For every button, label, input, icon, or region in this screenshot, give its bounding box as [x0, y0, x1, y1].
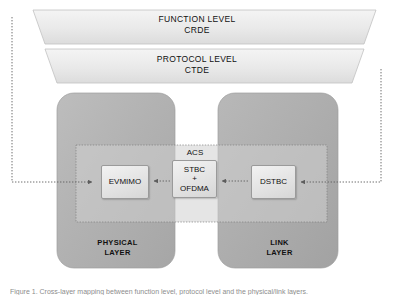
link-layer-label: LINK LAYER — [222, 238, 337, 257]
link-layer-line1: LINK — [222, 238, 337, 248]
stbc-ofdma-node[interactable]: STBC + OFDMA — [172, 160, 217, 198]
function-level-banner — [33, 10, 376, 44]
figure-caption: Figure 1. Cross-layer mapping between fu… — [10, 288, 384, 295]
stbc-line3: OFDMA — [180, 184, 209, 194]
physical-layer-line2: LAYER — [60, 248, 175, 258]
evmimo-node[interactable]: EVMIMO — [101, 165, 149, 199]
stbc-line2: + — [180, 174, 209, 184]
stbc-line1: STBC — [180, 165, 209, 175]
protocol-level-banner — [45, 49, 364, 83]
dstbc-node[interactable]: DSTBC — [251, 165, 296, 199]
link-layer-line2: LAYER — [222, 248, 337, 258]
dstbc-label: DSTBC — [260, 177, 287, 187]
physical-layer-line1: PHYSICAL — [60, 238, 175, 248]
evmimo-label: EVMIMO — [109, 177, 141, 187]
physical-layer-label: PHYSICAL LAYER — [60, 238, 175, 257]
acs-label: ACS — [155, 148, 235, 157]
